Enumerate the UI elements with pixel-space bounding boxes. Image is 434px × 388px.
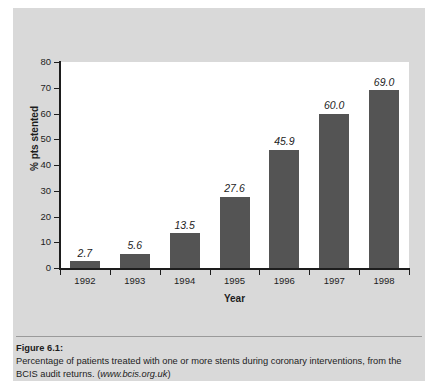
y-tick-label: 0 (23, 263, 51, 273)
x-axis-label-1995: 1995 (210, 276, 260, 286)
bar-value-label: 13.5 (156, 220, 214, 231)
bar-group: 5.6 (120, 62, 150, 268)
x-tick-mark (409, 270, 410, 275)
bar-group: 60.0 (319, 62, 349, 268)
x-tick-mark (110, 270, 111, 275)
figure-page: 01020304050607080 2.75.613.527.645.960.0… (0, 0, 434, 388)
y-tick-mark (54, 88, 59, 89)
bar-1993 (120, 254, 150, 268)
caption-divider (16, 336, 422, 337)
bar-group: 45.9 (269, 62, 299, 268)
bar-group: 2.7 (70, 62, 100, 268)
bar-group: 13.5 (170, 62, 200, 268)
y-tick-label: 80 (23, 57, 51, 67)
y-tick-mark (54, 114, 59, 115)
bar-1997 (319, 114, 349, 269)
bar-value-label: 45.9 (255, 136, 313, 147)
x-tick-mark (259, 270, 260, 275)
x-tick-mark (309, 270, 310, 275)
figure-caption: Figure 6.1:Percentage of patients treate… (16, 342, 420, 380)
x-axis-line (59, 268, 410, 270)
x-axis-label-1998: 1998 (359, 276, 409, 286)
x-tick-mark (160, 270, 161, 275)
caption-title: Figure 6.1: (16, 342, 420, 354)
y-tick-mark (54, 191, 59, 192)
bar-1996 (269, 150, 299, 268)
bar-value-label: 60.0 (305, 100, 363, 111)
y-tick-mark (54, 268, 59, 269)
bar-group: 27.6 (220, 62, 250, 268)
bar-group: 69.0 (369, 62, 399, 268)
x-tick-mark (359, 270, 360, 275)
caption-body-before: Percentage of patients treated with one … (16, 356, 402, 378)
bar-1995 (220, 197, 250, 268)
x-axis-label-1993: 1993 (110, 276, 160, 286)
bars-layer: 2.75.613.527.645.960.069.0 (60, 62, 409, 268)
caption-body-after: ) (167, 369, 170, 379)
y-tick-mark (54, 165, 59, 166)
x-axis-label-1997: 1997 (309, 276, 359, 286)
y-tick-mark (54, 62, 59, 63)
x-tick-mark (210, 270, 211, 275)
x-axis-title: Year (60, 293, 409, 304)
x-tick-mark (60, 270, 61, 275)
bar-value-label: 27.6 (206, 183, 264, 194)
figure-panel: 01020304050607080 2.75.613.527.645.960.0… (13, 8, 425, 381)
bar-1994 (170, 233, 200, 268)
bar-value-label: 69.0 (355, 77, 413, 88)
bar-1998 (369, 90, 399, 268)
chart-region: 01020304050607080 2.75.613.527.645.960.0… (13, 8, 425, 334)
y-axis-title: % pts stented (29, 89, 40, 189)
y-tick-label: 10 (23, 237, 51, 247)
x-axis-label-1992: 1992 (60, 276, 110, 286)
y-tick-label: 20 (23, 212, 51, 222)
caption-url: www.bcis.org.uk (100, 369, 167, 379)
bar-value-label: 5.6 (106, 240, 164, 251)
y-tick-mark (54, 217, 59, 218)
bar-1992 (70, 261, 100, 268)
y-tick-mark (54, 139, 59, 140)
x-axis-label-1996: 1996 (259, 276, 309, 286)
y-tick-mark (54, 242, 59, 243)
x-axis-label-1994: 1994 (160, 276, 210, 286)
